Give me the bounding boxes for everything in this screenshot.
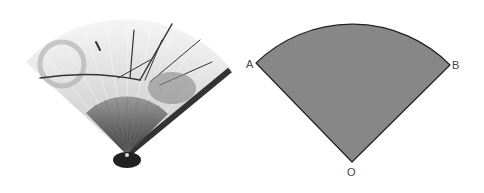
label-a: A (246, 58, 254, 70)
label-b: B (452, 59, 459, 71)
sector-shape (256, 24, 450, 162)
fan-image (0, 0, 240, 193)
label-o: O (347, 166, 356, 178)
sector-diagram: A B O (240, 0, 484, 193)
rock (148, 72, 196, 104)
